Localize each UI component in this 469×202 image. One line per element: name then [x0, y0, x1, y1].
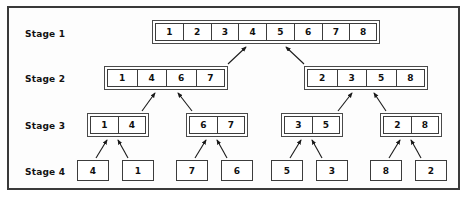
- stage4-leaf: 7: [176, 160, 208, 181]
- array-cell: 6: [166, 69, 196, 87]
- stage4-leaf: 5: [271, 160, 303, 181]
- stage-label-4: Stage 4: [25, 167, 65, 177]
- array-cell: 7: [322, 23, 350, 41]
- array-cell: 8: [396, 69, 426, 87]
- array-cell: 1: [90, 116, 118, 134]
- array-cell: 5: [312, 116, 340, 134]
- array-cell: 1: [155, 23, 183, 41]
- array-cell: 5: [366, 69, 396, 87]
- stage3-array-3: 3 5: [281, 113, 343, 137]
- stage-label-2: Stage 2: [25, 74, 65, 84]
- stage-label-1: Stage 1: [25, 29, 65, 39]
- array-cell: 6: [294, 23, 322, 41]
- stage3-array-4: 2 8: [380, 113, 442, 137]
- stage2-array-left: 1 4 6 7: [104, 66, 228, 90]
- stage3-array-2: 6 7: [186, 113, 248, 137]
- array-cell: 4: [238, 23, 266, 41]
- array-cell: 5: [266, 23, 294, 41]
- stage4-leaf: 6: [221, 160, 253, 181]
- stage-label-3: Stage 3: [25, 121, 65, 131]
- array-cell: 7: [196, 69, 226, 87]
- array-cell: 8: [349, 23, 377, 41]
- array-cell: 4: [118, 116, 146, 134]
- array-cell: 2: [307, 69, 337, 87]
- merge-sort-diagram: Stage 1 Stage 2 Stage 3 Stage 4 1 2 3 4 …: [0, 0, 469, 202]
- stage4-leaf: 2: [415, 160, 447, 181]
- array-cell: 3: [284, 116, 312, 134]
- stage3-array-1: 1 4: [87, 113, 149, 137]
- stage4-leaf: 4: [77, 160, 109, 181]
- array-cell: 6: [189, 116, 217, 134]
- stage1-array: 1 2 3 4 5 6 7 8: [152, 20, 380, 44]
- stage4-leaf: 3: [316, 160, 348, 181]
- stage2-array-right: 2 3 5 8: [304, 66, 428, 90]
- array-cell: 2: [383, 116, 411, 134]
- array-cell: 2: [183, 23, 211, 41]
- stage4-leaf: 8: [370, 160, 402, 181]
- array-cell: 1: [107, 69, 137, 87]
- array-cell: 3: [211, 23, 239, 41]
- stage4-leaf: 1: [122, 160, 154, 181]
- array-cell: 4: [137, 69, 167, 87]
- array-cell: 8: [411, 116, 439, 134]
- array-cell: 3: [337, 69, 367, 87]
- array-cell: 7: [217, 116, 245, 134]
